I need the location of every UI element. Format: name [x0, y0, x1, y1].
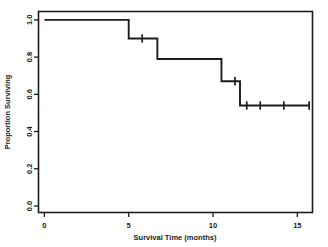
survival-plot: 051015 0.00.20.40.60.81.0 Survival Time … — [0, 0, 328, 247]
y-axis-tick-labels: 0.00.20.40.60.81.0 — [25, 15, 34, 212]
x-tick-label: 10 — [209, 221, 217, 230]
y-axis-title: Proportion Surviving — [3, 74, 12, 149]
y-tick-label: 0.6 — [25, 89, 34, 99]
y-tick-label: 0.0 — [25, 201, 34, 211]
y-tick-label: 0.4 — [25, 126, 34, 137]
x-tick-label: 5 — [127, 221, 131, 230]
plot-frame — [39, 12, 313, 213]
x-axis-tick-labels: 051015 — [42, 221, 301, 230]
x-tick-label: 15 — [293, 221, 301, 230]
y-tick-label: 0.8 — [25, 52, 34, 62]
x-axis-title: Survival Time (months) — [134, 233, 217, 242]
y-tick-label: 1.0 — [25, 15, 34, 25]
chart-screenshot: 051015 0.00.20.40.60.81.0 Survival Time … — [0, 0, 328, 247]
kaplan-meier-curve — [44, 20, 309, 106]
censoring-marks — [142, 34, 309, 109]
x-tick-label: 0 — [42, 221, 46, 230]
y-tick-label: 0.2 — [25, 164, 34, 174]
